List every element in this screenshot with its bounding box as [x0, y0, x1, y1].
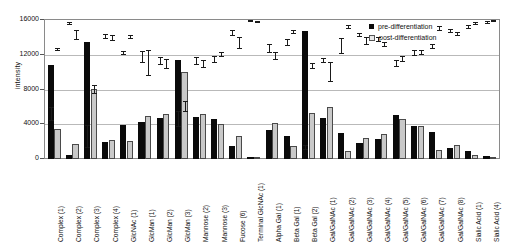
y-axis-tick-label: 0: [35, 154, 39, 161]
error-bar-cap: [74, 39, 79, 40]
error-bar-cap: [473, 22, 478, 23]
bar-post-differentiation: [54, 129, 60, 159]
error-bar-cap: [212, 62, 217, 63]
bar-post-differentiation: [381, 134, 387, 159]
error-bar-cap: [267, 52, 272, 53]
x-axis-tick-label: Complex (2): [75, 206, 82, 242]
error-bar-cap: [128, 38, 133, 39]
error-bar-cap: [357, 36, 362, 37]
error-bar-cap: [85, 147, 90, 148]
bar-group: [208, 20, 226, 159]
error-bar-cap: [437, 26, 442, 27]
bar-group: [263, 20, 281, 159]
x-axis-tick-label: Complex (4): [112, 206, 119, 242]
bar-post-differentiation: [436, 150, 442, 159]
bar-group: [299, 20, 317, 159]
error-bar-cap: [273, 59, 278, 60]
bar-pre-differentiation: [320, 118, 326, 159]
error-bar-cap: [201, 67, 206, 68]
error-bar-cap: [49, 107, 54, 108]
bar-pre-differentiation: [157, 118, 163, 159]
y-axis-tick-label: 4000: [23, 119, 39, 126]
bar-pre-differentiation: [375, 139, 381, 159]
bar-post-differentiation: [345, 151, 351, 159]
bar-post-differentiation: [454, 145, 460, 159]
bar-pre-differentiation: [483, 156, 489, 159]
x-axis-tick-label: Mannose (3): [221, 205, 228, 242]
error-bar-cap: [74, 30, 79, 31]
error-bar: [178, 112, 179, 127]
legend-label-pre: pre-differentiation: [378, 21, 432, 32]
error-bar-cap: [230, 35, 235, 36]
bar-group: [172, 20, 190, 159]
x-axis-tick-label: Sialic Acid (4): [493, 202, 500, 242]
error-bar-cap: [310, 63, 315, 64]
error-bar-cap: [466, 25, 471, 26]
x-axis-tick-label: Gal/GalNAc (3): [366, 197, 373, 242]
error-bar-cap: [346, 25, 351, 26]
y-axis: intensity 0400080001200016000: [0, 0, 44, 175]
error-bar-cap: [201, 60, 206, 61]
error-bar-cap: [430, 48, 435, 49]
bar-pre-differentiation: [411, 126, 417, 159]
error-bar-cap: [55, 50, 60, 51]
error-bar-cap: [394, 66, 399, 67]
error-bar-cap: [328, 81, 333, 82]
bar-post-differentiation: [218, 124, 224, 159]
error-bar-cap: [219, 56, 224, 57]
bar-post-differentiation: [91, 89, 97, 159]
error-bar-cap: [158, 57, 163, 58]
x-axis-tick-label: Complex (1): [57, 206, 64, 242]
error-bar-cap: [85, 125, 90, 126]
bar-pre-differentiation: [102, 142, 108, 159]
error-bar-cap: [485, 23, 490, 24]
error-bar-cap: [128, 35, 133, 36]
x-axis-tick-label: GlcNAc (1): [130, 210, 137, 242]
legend-item-post: post-differentiation: [369, 32, 436, 43]
x-axis-tick-label: Sialic Acid (1): [475, 202, 482, 242]
error-bar-cap: [285, 45, 290, 46]
bar-post-differentiation: [72, 144, 78, 159]
y-axis-tick-label: 12000: [20, 50, 39, 57]
error-bar-cap: [230, 30, 235, 31]
error-bar: [341, 39, 342, 55]
bar-group: [136, 20, 154, 159]
error-bar-cap: [466, 28, 471, 29]
x-axis-tick-label: Gal/GalNAc (7): [438, 197, 445, 242]
error-bar-cap: [194, 64, 199, 65]
bar-group: [317, 20, 335, 159]
bar-pre-differentiation: [175, 60, 181, 159]
bar-group: [227, 20, 245, 159]
bar-pre-differentiation: [393, 115, 399, 159]
bar-post-differentiation: [327, 107, 333, 159]
x-axis-tick-label: Beta Gal (1): [293, 206, 300, 242]
error-bar-cap: [400, 56, 405, 57]
x-axis-tick-label: Gal/GalNAc (4): [384, 197, 391, 242]
error-bar-cap: [291, 30, 296, 31]
bar-group: [281, 20, 299, 159]
error-bar-cap: [110, 40, 115, 41]
error-bar-cap: [67, 22, 72, 23]
error-bar-cap: [237, 37, 242, 38]
error-bar-cap: [339, 38, 344, 39]
bar-post-differentiation: [399, 119, 405, 159]
error-bar-cap: [419, 54, 424, 55]
bar-post-differentiation: [309, 113, 315, 159]
x-axis-labels: Complex (1)Complex (2)Complex (3)Complex…: [45, 162, 499, 244]
error-bar-cap: [430, 44, 435, 45]
bar-group: [190, 20, 208, 159]
error-bar-cap: [237, 48, 242, 49]
bar-post-differentiation: [109, 140, 115, 159]
error-bar-cap: [473, 24, 478, 25]
bar-post-differentiation: [254, 157, 260, 159]
legend-label-post: post-differentiation: [379, 32, 436, 43]
error-bar-cap: [212, 56, 217, 57]
bar-group: [81, 20, 99, 159]
error-bar-cap: [419, 50, 424, 51]
bar-pre-differentiation: [193, 117, 199, 159]
error-bar-cap: [291, 33, 296, 34]
bar-group: [481, 20, 499, 159]
x-axis-tick-label: Mannose (2): [202, 205, 209, 242]
bar-pre-differentiation: [66, 155, 72, 159]
error-bar-cap: [455, 32, 460, 33]
